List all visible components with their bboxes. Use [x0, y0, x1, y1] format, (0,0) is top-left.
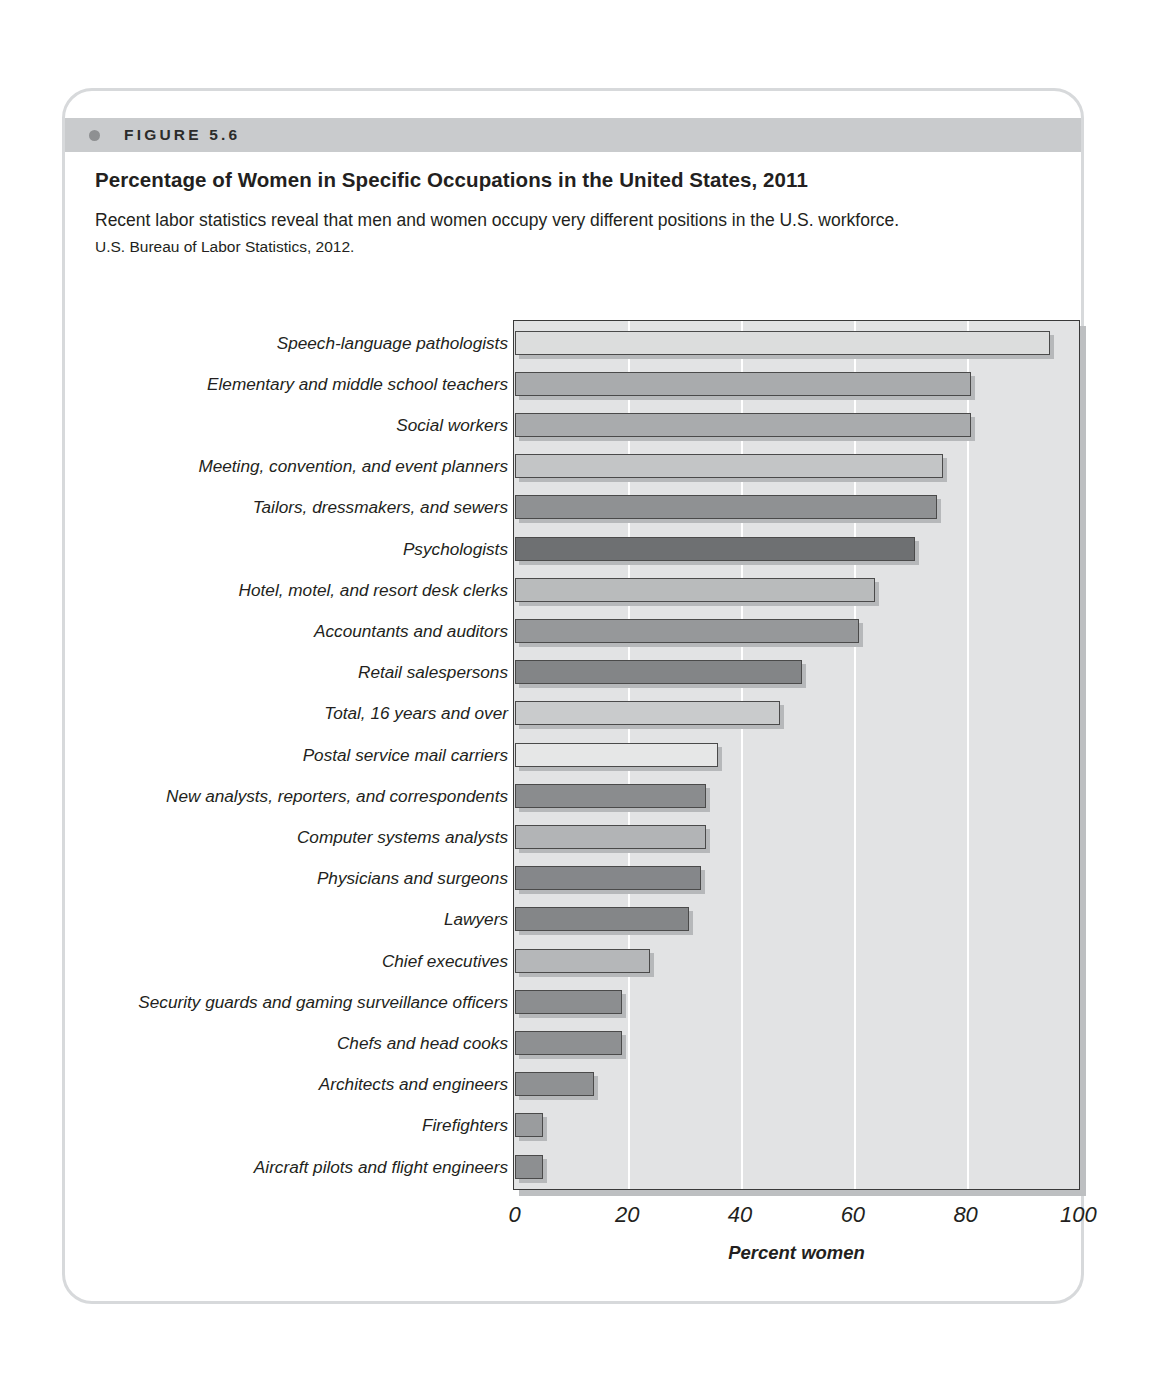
bar-row[interactable]: Chief executives	[62, 940, 1084, 981]
bar-category-label: Computer systems analysts	[297, 826, 508, 847]
bar[interactable]	[515, 825, 707, 849]
bar-category-label: Psychologists	[403, 538, 508, 559]
bar[interactable]	[515, 372, 972, 396]
x-tick-label: 40	[728, 1202, 752, 1228]
bar-row[interactable]: Postal service mail carriers	[62, 734, 1084, 775]
bar-row[interactable]: Accountants and auditors	[62, 610, 1084, 651]
bar-row[interactable]: Hotel, motel, and resort desk clerks	[62, 569, 1084, 610]
bar-category-label: Tailors, dressmakers, and sewers	[253, 497, 508, 518]
bar[interactable]	[515, 660, 803, 684]
figure-source: U.S. Bureau of Labor Statistics, 2012.	[95, 238, 1035, 256]
bar[interactable]	[515, 1155, 543, 1179]
bar-row[interactable]: Firefighters	[62, 1105, 1084, 1146]
bar-category-label: Social workers	[396, 414, 508, 435]
x-tick-label: 20	[615, 1202, 639, 1228]
x-tick-label: 100	[1060, 1202, 1097, 1228]
bar-category-label: Hotel, motel, and resort desk clerks	[239, 579, 508, 600]
bar-row[interactable]: Computer systems analysts	[62, 816, 1084, 857]
bullet-dot-icon	[89, 130, 100, 141]
bar-row[interactable]: New analysts, reporters, and corresponde…	[62, 775, 1084, 816]
figure-title: Percentage of Women in Specific Occupati…	[95, 168, 1035, 192]
bar-category-label: Elementary and middle school teachers	[207, 373, 508, 394]
figure-description: Recent labor statistics reveal that men …	[95, 209, 925, 232]
bar-rows: Speech-language pathologistsElementary a…	[62, 312, 1084, 1302]
bar-row[interactable]: Aircraft pilots and flight engineers	[62, 1146, 1084, 1187]
bar[interactable]	[515, 701, 780, 725]
bar[interactable]	[515, 331, 1051, 355]
bar-row[interactable]: Chefs and head cooks	[62, 1022, 1084, 1063]
bar-row[interactable]: Speech-language pathologists	[62, 322, 1084, 363]
bar[interactable]	[515, 537, 915, 561]
x-tick-label: 60	[841, 1202, 865, 1228]
bar-row[interactable]: Physicians and surgeons	[62, 858, 1084, 899]
x-tick-label: 80	[953, 1202, 977, 1228]
bar-category-label: Accountants and auditors	[314, 620, 508, 641]
bar[interactable]	[515, 1072, 594, 1096]
bar-category-label: Retail salespersons	[358, 662, 508, 683]
bar[interactable]	[515, 619, 859, 643]
bar-category-label: New analysts, reporters, and corresponde…	[166, 785, 508, 806]
bar-row[interactable]: Architects and engineers	[62, 1064, 1084, 1105]
bar-category-label: Architects and engineers	[319, 1074, 508, 1095]
bar-row[interactable]: Psychologists	[62, 528, 1084, 569]
bar-category-label: Postal service mail carriers	[303, 744, 508, 765]
bar[interactable]	[515, 743, 718, 767]
bar[interactable]	[515, 990, 622, 1014]
x-tick-label: 0	[508, 1202, 520, 1228]
bar-category-label: Speech-language pathologists	[277, 332, 508, 353]
bar[interactable]	[515, 866, 701, 890]
figure-number-label: FIGURE 5.6	[124, 126, 240, 144]
bar[interactable]	[515, 949, 650, 973]
bar-chart: Speech-language pathologistsElementary a…	[62, 312, 1084, 1302]
bar-row[interactable]: Lawyers	[62, 899, 1084, 940]
x-axis-title: Percent women	[513, 1242, 1080, 1264]
bar-row[interactable]: Tailors, dressmakers, and sewers	[62, 487, 1084, 528]
bar-category-label: Total, 16 years and over	[324, 703, 508, 724]
bar-category-label: Aircraft pilots and flight engineers	[254, 1156, 508, 1177]
bar-category-label: Lawyers	[444, 909, 508, 930]
figure-caption-block: Percentage of Women in Specific Occupati…	[95, 168, 1035, 256]
bar[interactable]	[515, 1113, 543, 1137]
figure-number-band: FIGURE 5.6	[65, 118, 1081, 152]
bar-category-label: Security guards and gaming surveillance …	[138, 991, 508, 1012]
bar-category-label: Firefighters	[422, 1115, 508, 1136]
bar[interactable]	[515, 578, 876, 602]
bar[interactable]	[515, 1031, 622, 1055]
bar[interactable]	[515, 495, 938, 519]
bar-row[interactable]: Meeting, convention, and event planners	[62, 446, 1084, 487]
bar-row[interactable]: Security guards and gaming surveillance …	[62, 981, 1084, 1022]
bar-row[interactable]: Elementary and middle school teachers	[62, 363, 1084, 404]
bar-row[interactable]: Retail salespersons	[62, 652, 1084, 693]
bar-row[interactable]: Total, 16 years and over	[62, 693, 1084, 734]
bar-category-label: Chefs and head cooks	[337, 1032, 508, 1053]
bar-category-label: Meeting, convention, and event planners	[198, 456, 508, 477]
figure-number-band-content: FIGURE 5.6	[65, 118, 240, 152]
x-axis-tick-labels: 020406080100	[513, 1202, 1080, 1236]
bar[interactable]	[515, 907, 690, 931]
bar-category-label: Physicians and surgeons	[317, 868, 508, 889]
bar[interactable]	[515, 454, 943, 478]
bar-row[interactable]: Social workers	[62, 404, 1084, 445]
bar[interactable]	[515, 413, 972, 437]
bar[interactable]	[515, 784, 707, 808]
bar-category-label: Chief executives	[382, 950, 508, 971]
